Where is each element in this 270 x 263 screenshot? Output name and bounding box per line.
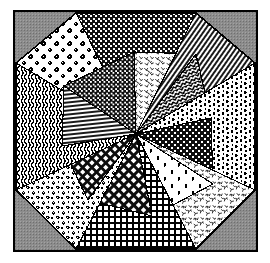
patch-layer: Rosette floral print Dense dotted weave … [16, 13, 255, 249]
quilt-block-canvas: Rosette floral print Dense dotted weave … [0, 0, 270, 263]
quilt-block-figure: Rosette floral print Dense dotted weave … [0, 0, 270, 263]
